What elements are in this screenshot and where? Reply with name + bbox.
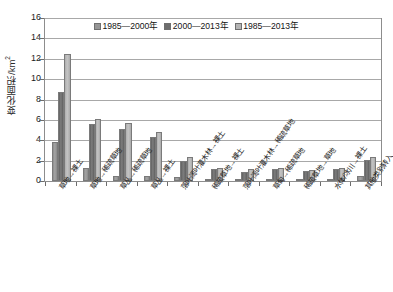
bar-group[interactable] [174,18,193,181]
legend-swatch [164,23,171,30]
y-axis-tick-mark [39,100,44,101]
y-axis-tick-mark [39,161,44,162]
y-axis-tick-label: 14 [19,32,41,42]
x-axis-tick-label: 草丛→稀疏草地 [119,187,126,192]
x-axis-tick-label: 草甸→稀疏草地 [272,187,279,192]
legend-label: 1985—2000年 [102,21,158,31]
x-axis-tick-label: 水体/冰川→裸土 [333,187,340,192]
legend-label: 2000—2013年 [173,21,229,31]
bar-chart: 变化面积/km2 0246810121416 草地→裸土草地→稀疏草地草丛→稀疏… [0,0,393,292]
legend-item[interactable]: 1985—2000年 [94,19,158,31]
y-axis-tick-label: 12 [19,53,41,63]
x-axis-tick-label: 稀疏草地→草地 [303,187,310,192]
y-axis-title-text: 变化面积/km [6,60,17,115]
y-axis-tick-label: 8 [19,94,41,104]
x-axis-tick-label: 草地→稀疏草地 [89,187,96,192]
bar-group[interactable] [52,18,71,181]
legend-item[interactable]: 2000—2013年 [164,19,228,31]
x-axis-tick-label: 落叶阔叶灌木林→裸土 [180,187,187,192]
y-axis-title: 变化面积/km2 [2,56,16,115]
y-axis-tick-mark [39,38,44,39]
y-axis-tick-label: 6 [19,114,41,124]
bar[interactable] [64,54,70,181]
y-axis-tick-mark [39,140,44,141]
legend-item[interactable]: 1985—2013年 [235,19,299,31]
x-axis-tick-label: 其他类别转入 [364,187,371,192]
y-axis-title-exponent: 2 [4,56,11,60]
x-axis-tick-label: 草丛→裸土 [150,187,157,192]
x-axis-tick-label: 稀疏草地→裸土 [211,187,218,192]
x-axis-tick-label: 落叶阔叶灌木林→稀疏草地 [242,187,249,192]
x-axis-tick-label: 草地→裸土 [58,187,65,192]
y-axis-tick-mark [39,59,44,60]
legend-label: 1985—2013年 [243,21,299,31]
y-axis-tick-mark [39,79,44,80]
legend-swatch [94,23,101,30]
chart-legend: 1985—2000年2000—2013年1985—2013年 [0,19,393,31]
y-axis-tick-label: 4 [19,134,41,144]
legend-swatch [235,23,242,30]
y-axis-tick-mark [39,120,44,121]
y-axis-tick-label: 10 [19,73,41,83]
bar-group[interactable] [83,18,102,181]
y-axis-tick-label: 2 [19,155,41,165]
x-axis-labels: 草地→裸土草地→稀疏草地草丛→稀疏草地草丛→裸土落叶阔叶灌木林→裸土稀疏草地→裸… [0,182,393,292]
